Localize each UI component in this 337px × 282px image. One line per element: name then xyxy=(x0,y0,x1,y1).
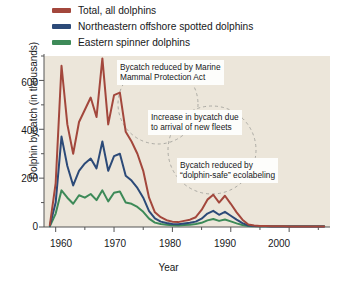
y-tick-400: 400 xyxy=(12,125,38,136)
legend-item-total: Total, all dolphins xyxy=(52,4,253,17)
annotation-fleets-line1: Increase in bycatch due xyxy=(151,112,239,122)
legend-item-spotted: Northeastern offshore spotted dolphins xyxy=(52,20,253,33)
annotation-eco-line2: “dolphin-safe” ecolabeling xyxy=(180,170,275,180)
annotation-eco-line1: Bycatch reduced by xyxy=(180,160,253,170)
legend-swatch-total xyxy=(52,8,71,13)
legend-label-spotted: Northeastern offshore spotted dolphins xyxy=(78,21,253,33)
y-tick-200: 200 xyxy=(12,173,38,184)
legend-label-spinner: Eastern spinner dolphins xyxy=(78,37,190,49)
y-tick-600: 600 xyxy=(12,77,38,88)
chart-figure: Total, all dolphins Northeastern offshor… xyxy=(0,0,337,282)
x-axis-title: Year xyxy=(0,262,337,273)
y-tick-0: 0 xyxy=(12,221,38,232)
legend-label-total: Total, all dolphins xyxy=(78,5,156,17)
annotation-mmpa: Bycatch reduced by Marine Mammal Protect… xyxy=(117,60,224,85)
annotation-mmpa-line2: Mammal Protection Act xyxy=(120,72,205,82)
annotation-fleets-line2: to arrival of new fleets xyxy=(151,122,232,132)
legend-swatch-spotted xyxy=(52,24,71,29)
x-tick-1990: 1990 xyxy=(205,238,245,249)
annotation-ecolabel: Bycatch reduced by “dolphin-safe” ecolab… xyxy=(177,158,278,183)
y-axis-title: Dolphin bycatch (in thousands) xyxy=(28,26,39,196)
legend-swatch-spinner xyxy=(52,40,71,45)
annotation-mmpa-line1: Bycatch reduced by Marine xyxy=(120,62,221,72)
annotation-fleets: Increase in bycatch due to arrival of ne… xyxy=(148,110,242,135)
x-tick-2000: 2000 xyxy=(259,238,299,249)
chart-legend: Total, all dolphins Northeastern offshor… xyxy=(52,4,253,52)
legend-item-spinner: Eastern spinner dolphins xyxy=(52,36,253,49)
x-tick-1960: 1960 xyxy=(41,238,81,249)
x-tick-1980: 1980 xyxy=(150,238,190,249)
x-tick-1970: 1970 xyxy=(95,238,135,249)
